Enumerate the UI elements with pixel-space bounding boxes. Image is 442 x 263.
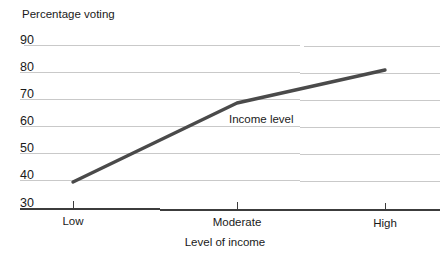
gridline-90 <box>20 45 440 47</box>
gridline-70 <box>20 99 440 101</box>
y-axis-title: Percentage voting <box>22 8 115 20</box>
gridline-50 <box>20 153 440 155</box>
y-tick-label-60: 60 <box>20 114 34 128</box>
y-tick-label-50: 50 <box>20 141 34 155</box>
y-tick-label-90: 90 <box>20 33 34 47</box>
series-annotation-label: Income level <box>229 113 294 125</box>
y-tick-label-30: 30 <box>20 196 34 210</box>
x-tick-label-moderate: Moderate <box>213 216 262 228</box>
x-axis-baseline <box>20 209 440 211</box>
gridline-60 <box>20 126 440 128</box>
chart-canvas: Percentage voting 90 80 70 60 50 40 30 L… <box>0 0 442 263</box>
y-tick-label-80: 80 <box>20 60 34 74</box>
y-tick-label-40: 40 <box>20 168 34 182</box>
line-chart: Percentage voting 90 80 70 60 50 40 30 L… <box>0 0 442 263</box>
x-tick-label-low: Low <box>62 215 84 227</box>
gridline-40 <box>20 180 440 182</box>
x-tick-label-high: High <box>373 217 397 229</box>
x-axis-title: Level of income <box>185 236 266 248</box>
y-tick-label-70: 70 <box>20 87 34 101</box>
